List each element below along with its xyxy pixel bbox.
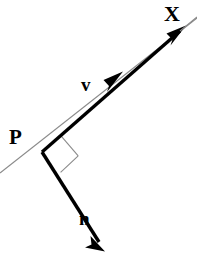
right-angle-marker bbox=[42, 136, 78, 173]
diagram-canvas bbox=[0, 0, 197, 257]
tangent-vector-v bbox=[42, 26, 186, 153]
normal-vector-n bbox=[42, 152, 105, 252]
label-line-x: X bbox=[164, 3, 180, 25]
line-x-extension bbox=[180, 17, 197, 31]
label-tangent-v: v bbox=[81, 75, 91, 94]
label-point-p: P bbox=[9, 127, 22, 148]
vector-diagram: X v P n bbox=[0, 0, 197, 257]
label-normal-n: n bbox=[79, 209, 90, 228]
